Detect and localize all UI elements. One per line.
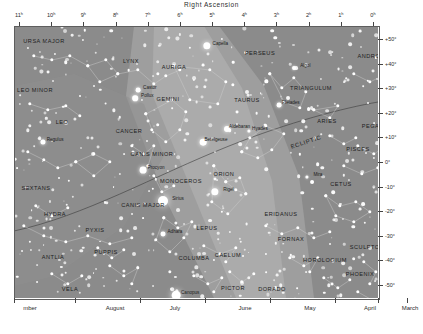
star <box>171 107 173 109</box>
star <box>234 132 236 134</box>
star <box>305 64 309 68</box>
constellation-lines <box>14 26 378 298</box>
star <box>331 237 333 239</box>
star <box>189 34 193 38</box>
star <box>127 69 130 72</box>
star <box>148 190 150 192</box>
star <box>342 273 346 277</box>
star <box>87 275 91 279</box>
star <box>65 58 69 62</box>
star <box>362 85 364 87</box>
star <box>133 226 137 230</box>
star <box>71 62 72 63</box>
star <box>43 244 45 246</box>
star <box>374 228 375 229</box>
star <box>152 75 154 77</box>
month-label: August <box>106 305 125 311</box>
star <box>334 218 338 222</box>
dec-axis: Declination +50°+40°+30°+20°+10°0°-10°-2… <box>378 26 423 298</box>
ra-axis-title: Right Ascension <box>0 1 423 8</box>
star <box>63 29 67 33</box>
star <box>282 291 285 294</box>
star <box>36 282 38 284</box>
star <box>109 29 113 33</box>
star <box>94 52 97 55</box>
star <box>327 277 329 279</box>
star <box>321 175 325 179</box>
month-tick <box>140 298 141 303</box>
ra-tick-label: 7ʰ <box>145 12 150 18</box>
star <box>337 67 340 70</box>
star <box>131 151 134 154</box>
star <box>47 121 51 125</box>
star <box>245 223 248 226</box>
star <box>321 266 325 270</box>
star <box>120 216 124 220</box>
star <box>279 284 283 288</box>
star <box>64 272 67 275</box>
star <box>139 139 141 141</box>
dec-tick <box>378 39 383 40</box>
month-label: May <box>304 305 315 311</box>
star <box>305 125 308 128</box>
star <box>282 243 284 245</box>
star <box>33 145 35 147</box>
month-tick <box>205 298 206 303</box>
dec-tick <box>378 236 383 237</box>
star <box>367 102 369 104</box>
star <box>79 95 81 97</box>
star <box>64 121 68 125</box>
star <box>210 138 213 141</box>
star <box>93 85 95 87</box>
star <box>45 218 48 221</box>
star <box>217 232 220 235</box>
bright-star <box>292 66 296 70</box>
star <box>103 285 105 287</box>
star <box>41 56 44 59</box>
star <box>343 81 345 83</box>
star <box>239 142 243 146</box>
star <box>297 287 299 289</box>
month-axis: mberAugustJulyJuneMayAprilMarch <box>0 298 423 324</box>
star <box>119 116 122 119</box>
star <box>297 174 301 178</box>
star <box>310 180 314 184</box>
star <box>71 34 74 37</box>
month-tick <box>335 298 336 303</box>
star <box>164 28 168 32</box>
star <box>55 239 58 242</box>
star <box>21 250 23 252</box>
star <box>318 49 321 52</box>
star <box>19 94 21 96</box>
star <box>31 209 33 211</box>
bright-star <box>140 167 147 174</box>
ra-tick-label: 3ʰ <box>274 12 279 18</box>
star <box>276 274 279 277</box>
dec-tick-label: -50° <box>385 282 395 288</box>
ra-tick-label: 5ʰ <box>209 12 214 18</box>
star <box>36 219 39 222</box>
star <box>142 217 144 219</box>
star <box>339 293 343 297</box>
star <box>156 60 160 64</box>
dec-tick-label: +30° <box>385 85 396 91</box>
star <box>271 62 273 64</box>
dec-tick <box>378 187 383 188</box>
star <box>87 283 91 287</box>
star <box>153 249 155 251</box>
star <box>242 255 244 257</box>
star <box>51 141 53 143</box>
dec-tick <box>378 88 383 89</box>
star <box>255 112 258 115</box>
star <box>236 110 239 113</box>
star <box>123 153 125 155</box>
ra-tick-label: 10ʰ <box>47 12 55 18</box>
ra-tick-label: 6ʰ <box>177 12 182 18</box>
bright-star <box>136 88 141 93</box>
dec-tick-label: +20° <box>385 110 396 116</box>
star <box>289 63 292 66</box>
star <box>286 96 290 100</box>
star <box>22 149 25 152</box>
star <box>183 223 185 225</box>
star <box>206 52 209 55</box>
